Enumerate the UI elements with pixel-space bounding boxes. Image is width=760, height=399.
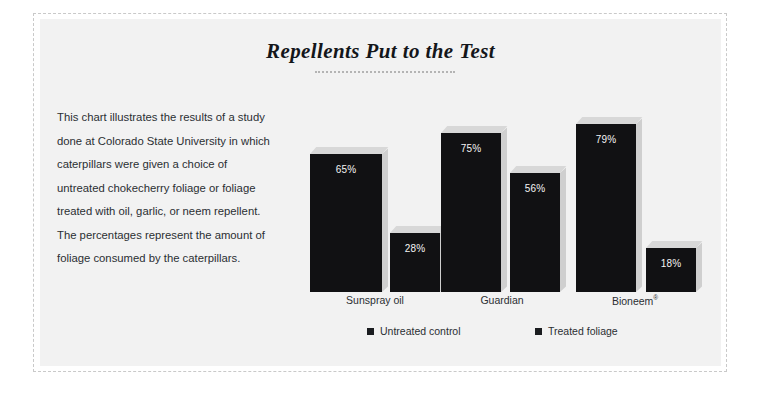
category-label-bioneem: Bioneem®: [560, 294, 710, 307]
bar-side-face: [636, 119, 642, 292]
category-label-text: Bioneem: [612, 295, 653, 307]
legend-entry-untreated-control[interactable]: Untreated control: [367, 325, 461, 337]
bar-group-bioneem: 79% 18% Bioneem®: [568, 80, 698, 292]
category-label-guardian: Guardian: [427, 294, 577, 306]
bar-side-face: [696, 243, 702, 292]
legend-swatch-icon: [367, 328, 374, 335]
bar-side-face: [501, 128, 507, 292]
bar-treated-foliage[interactable]: 56%: [510, 173, 560, 292]
bar-value-label: 65%: [310, 164, 382, 175]
bar-untreated-control[interactable]: 75%: [441, 133, 501, 292]
legend-swatch-icon: [535, 328, 542, 335]
bar-untreated-control[interactable]: 65%: [310, 154, 382, 292]
bar-chart-plot-area: 65% 28% Sunspray oil 75% 56%: [300, 80, 720, 292]
bar-top-face: [441, 126, 507, 133]
bar-side-face: [382, 149, 388, 292]
bar-value-label: 75%: [441, 143, 501, 154]
bar-value-label: 18%: [646, 258, 696, 269]
title-dotted-divider: [315, 71, 455, 73]
registered-trademark-mark: ®: [653, 294, 658, 301]
bar-value-label: 56%: [510, 183, 560, 194]
legend-label: Untreated control: [380, 325, 461, 337]
bar-side-face: [560, 168, 566, 292]
bar-front-face: 65%: [310, 154, 382, 292]
bar-group-guardian: 75% 56% Guardian: [433, 80, 563, 292]
bar-front-face: 56%: [510, 173, 560, 292]
category-label-text: Guardian: [480, 294, 523, 306]
chart-title: Repellents Put to the Test: [40, 39, 721, 64]
legend-label: Treated foliage: [548, 325, 618, 337]
bar-top-face: [646, 241, 702, 248]
chart-legend: Untreated control Treated foliage: [300, 325, 720, 341]
chart-description-text: This chart illustrates the results of a …: [57, 106, 272, 271]
legend-entry-treated-foliage[interactable]: Treated foliage: [535, 325, 618, 337]
bar-treated-foliage[interactable]: 18%: [646, 248, 696, 292]
bar-top-face: [510, 166, 566, 173]
bar-front-face: 79%: [576, 124, 636, 292]
bar-front-face: 75%: [441, 133, 501, 292]
bar-top-face: [310, 147, 388, 154]
bar-untreated-control[interactable]: 79%: [576, 124, 636, 292]
bar-value-label: 79%: [576, 134, 636, 145]
category-label-text: Sunspray oil: [346, 294, 404, 306]
bar-group-sunspray-oil: 65% 28% Sunspray oil: [300, 80, 430, 292]
bar-top-face: [576, 117, 642, 124]
bar-front-face: 18%: [646, 248, 696, 292]
